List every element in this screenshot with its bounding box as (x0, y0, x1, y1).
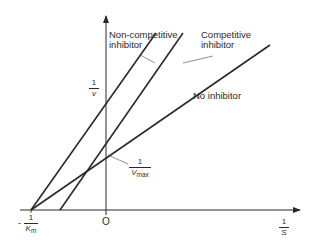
km-minus-sign: - (18, 218, 21, 228)
km-fraction: 1 Km (24, 214, 38, 235)
x-axis-label: 1 S (279, 218, 289, 237)
no-inhibitor-label-text: No inhibitor (193, 90, 241, 101)
competitive-label: Competitive inhibitor (201, 30, 251, 50)
non-competitive-label: Non-competitive inhibitor (109, 30, 178, 50)
non-competitive-leader (140, 55, 155, 63)
no-inhibitor-line (31, 45, 270, 210)
y-label-denominator: v (89, 90, 99, 98)
origin-label: O (102, 216, 110, 227)
vmax-numerator: 1 (129, 158, 151, 166)
no-inhibitor-label: No inhibitor (193, 91, 241, 101)
km-denominator: Km (24, 225, 38, 235)
non-competitive-label-line2: inhibitor (109, 40, 178, 50)
x-label-denominator: S (279, 229, 289, 237)
y-label-numerator: 1 (89, 79, 99, 87)
vmax-leader (108, 155, 128, 164)
vmax-denominator: Vmax (129, 169, 151, 179)
competitive-label-line2: inhibitor (201, 40, 251, 50)
competitive-inhibitor-line (60, 33, 183, 210)
x-label-numerator: 1 (279, 218, 289, 226)
vmax-subscript: max (137, 171, 149, 178)
vmax-intercept-label: 1 Vmax (129, 158, 151, 179)
km-numerator: 1 (24, 214, 38, 222)
non-competitive-inhibitor-line (31, 33, 156, 210)
competitive-leader (183, 56, 213, 63)
lineweaver-burk-diagram: 1 v 1 S O - 1 Km 1 Vmax Non-competitive … (0, 0, 322, 240)
y-axis-label: 1 v (89, 79, 99, 98)
km-subscript: m (31, 227, 36, 234)
